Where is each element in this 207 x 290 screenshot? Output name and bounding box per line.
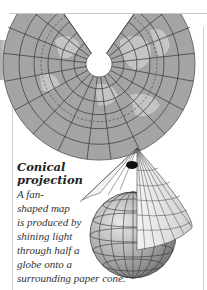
fan-map-sector	[3, 0, 195, 160]
caption-title-line: projection	[17, 174, 137, 187]
caption-body-line: shining light	[17, 229, 137, 243]
caption-title: Conical projection	[17, 161, 137, 187]
caption-body-line: through half a	[17, 243, 137, 257]
caption-body-line: globe onto a	[17, 257, 137, 271]
caption-body-line: A fan-	[17, 187, 137, 201]
fan-map-illustration	[3, 0, 195, 160]
caption-body-line: shaped map	[17, 201, 137, 215]
top-margin	[0, 0, 207, 13]
caption-block: Conical projection A fan- shaped map is …	[17, 161, 137, 285]
caption-body: A fan- shaped map is produced by shining…	[17, 187, 137, 285]
caption-body-line: is produced by	[17, 215, 137, 229]
caption-body-line: surrounding paper cone.	[17, 271, 137, 285]
